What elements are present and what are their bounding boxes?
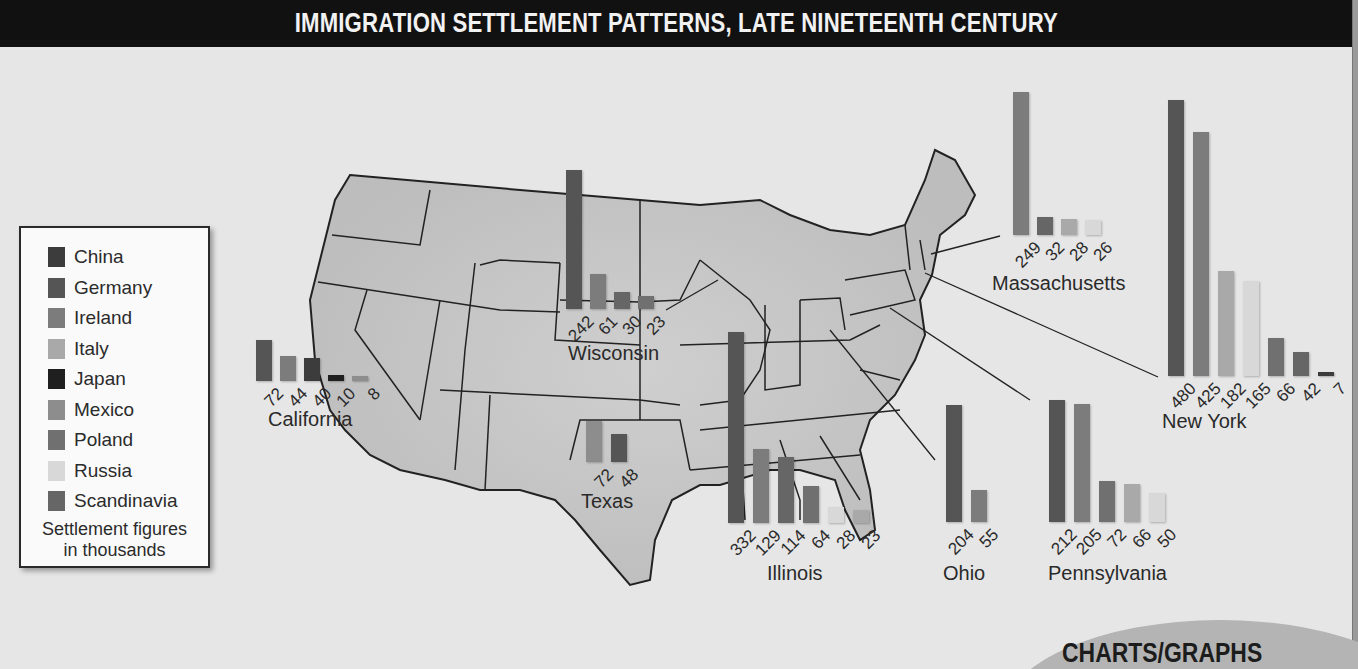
state-label-california: California xyxy=(268,408,352,431)
bar-new-york-italy xyxy=(1218,271,1234,376)
bar-california-japan xyxy=(328,375,344,381)
bar-california-germany xyxy=(256,340,272,381)
bar-new-york-russia xyxy=(1243,281,1259,376)
legend-item-russia: Russia xyxy=(21,456,208,487)
legend-label: Mexico xyxy=(74,399,134,421)
bar-massachusetts-ireland xyxy=(1013,92,1029,235)
bar-ohio-ireland xyxy=(971,490,987,522)
legend-swatch xyxy=(48,491,65,511)
bar-massachusetts-italy xyxy=(1061,219,1077,235)
legend-item-scandinavia: Scandinavia xyxy=(21,486,208,517)
bar-new-york-poland xyxy=(1268,338,1284,376)
bar-wisconsin-germany xyxy=(566,170,582,309)
bar-illinois-germany xyxy=(728,332,744,523)
legend-label: Ireland xyxy=(74,307,132,329)
legend-note: Settlement figures in thousands xyxy=(21,519,208,561)
bar-pennsylvania-italy xyxy=(1124,484,1140,522)
legend-item-italy: Italy xyxy=(21,334,208,365)
bar-illinois-poland xyxy=(803,486,819,523)
legend-swatch xyxy=(48,339,65,359)
bar-new-york-germany xyxy=(1168,100,1184,376)
legend-swatch xyxy=(48,369,65,389)
legend-label: Japan xyxy=(74,368,126,390)
legend-label: Poland xyxy=(74,429,133,451)
legend-note-line2: in thousands xyxy=(21,540,208,561)
legend-item-mexico: Mexico xyxy=(21,395,208,426)
bar-illinois-ireland xyxy=(753,449,769,523)
legend-item-japan: Japan xyxy=(21,364,208,395)
bar-ohio-germany xyxy=(946,405,962,522)
legend-label: Germany xyxy=(74,277,152,299)
legend-item-china: China xyxy=(21,242,208,273)
legend-swatch xyxy=(48,308,65,328)
legend-swatch xyxy=(48,400,65,420)
legend-label: Italy xyxy=(74,338,109,360)
state-label-texas: Texas xyxy=(581,490,633,513)
legend-item-ireland: Ireland xyxy=(21,303,208,334)
legend-swatch xyxy=(48,278,65,298)
bar-california-mexico xyxy=(352,376,368,381)
page-edge xyxy=(1352,0,1358,669)
legend-label: Russia xyxy=(74,460,132,482)
title-bar: IMMIGRATION SETTLEMENT PATTERNS, LATE NI… xyxy=(0,0,1352,47)
bar-california-china xyxy=(304,358,320,381)
legend-label: Scandinavia xyxy=(74,490,178,512)
bar-illinois-italy xyxy=(853,510,869,523)
bar-massachusetts-scandinavia xyxy=(1037,217,1053,235)
bar-new-york-china xyxy=(1318,372,1334,376)
us-outline xyxy=(310,150,975,585)
legend-label: China xyxy=(74,246,124,268)
state-label-wisconsin: Wisconsin xyxy=(568,342,659,365)
legend-item-germany: Germany xyxy=(21,273,208,304)
bar-pennsylvania-germany xyxy=(1049,400,1065,522)
bar-pennsylvania-russia xyxy=(1149,493,1165,522)
state-label-illinois: Illinois xyxy=(767,562,823,585)
bar-new-york-scandinavia xyxy=(1293,352,1309,376)
state-label-pennsylvania: Pennsylvania xyxy=(1048,562,1167,585)
bar-wisconsin-poland xyxy=(638,296,654,309)
chart-title: IMMIGRATION SETTLEMENT PATTERNS, LATE NI… xyxy=(294,8,1057,39)
legend-swatch xyxy=(48,430,65,450)
legend-item-poland: Poland xyxy=(21,425,208,456)
bar-wisconsin-ireland xyxy=(590,274,606,309)
bar-california-ireland xyxy=(280,356,296,381)
bar-illinois-russia xyxy=(828,507,844,523)
bar-texas-germany xyxy=(611,434,627,462)
bar-wisconsin-scandinavia xyxy=(614,292,630,309)
bar-pennsylvania-poland xyxy=(1099,481,1115,522)
legend-note-line1: Settlement figures xyxy=(21,519,208,540)
legend-swatch xyxy=(48,247,65,267)
bar-massachusetts-russia xyxy=(1085,220,1101,235)
bar-new-york-ireland xyxy=(1193,132,1209,376)
state-label-ohio: Ohio xyxy=(943,562,985,585)
legend-swatch xyxy=(48,461,65,481)
state-label-massachusetts: Massachusetts xyxy=(992,272,1125,295)
bar-illinois-scandinavia xyxy=(778,457,794,523)
section-badge: CHARTS/GRAPHS xyxy=(1062,638,1262,669)
legend: ChinaGermanyIrelandItalyJapanMexicoPolan… xyxy=(19,226,210,568)
bar-texas-mexico xyxy=(586,421,602,462)
bar-pennsylvania-ireland xyxy=(1074,404,1090,522)
state-label-new-york: New York xyxy=(1162,410,1247,433)
